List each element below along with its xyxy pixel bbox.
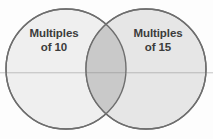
venn-diagram-figure: Multiples of 10 Multiples of 15 [0, 0, 213, 139]
venn-diagram-canvas [0, 0, 213, 139]
set-label-right: Multiples of 15 [125, 27, 191, 54]
set-label-left: Multiples of 10 [21, 27, 87, 54]
